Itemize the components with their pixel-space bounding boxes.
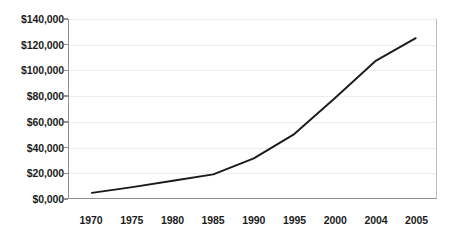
x-tick-label: 1970	[80, 214, 103, 226]
x-tick-label: 2005	[405, 214, 428, 226]
y-tick-label: $0,000	[0, 193, 64, 205]
y-tick-label: $80,000	[0, 90, 64, 102]
x-tick-label: 1980	[161, 214, 184, 226]
line-chart: $0,000$20,000$40,000$60,000$80,000$100,0…	[0, 0, 451, 237]
y-tick-label: $100,000	[0, 64, 64, 76]
x-tick-label: 2000	[324, 214, 347, 226]
y-tick-label: $120,000	[0, 39, 64, 51]
x-tick-label: 2004	[364, 214, 387, 226]
x-tick-label: 1990	[242, 214, 265, 226]
y-tick-label: $60,000	[0, 116, 64, 128]
x-tick-label: 1975	[120, 214, 143, 226]
y-tick-label: $140,000	[0, 13, 64, 25]
y-tick-label: $20,000	[0, 167, 64, 179]
x-tick-label: 1985	[202, 214, 225, 226]
x-tick-label: 1995	[283, 214, 306, 226]
y-tick-label: $40,000	[0, 142, 64, 154]
x-axis: 197019751980198519901995200020042005	[0, 214, 451, 232]
series-polyline	[92, 38, 416, 193]
y-axis: $0,000$20,000$40,000$60,000$80,000$100,0…	[0, 0, 64, 237]
series-line	[69, 19, 436, 198]
plot-area	[68, 19, 437, 199]
